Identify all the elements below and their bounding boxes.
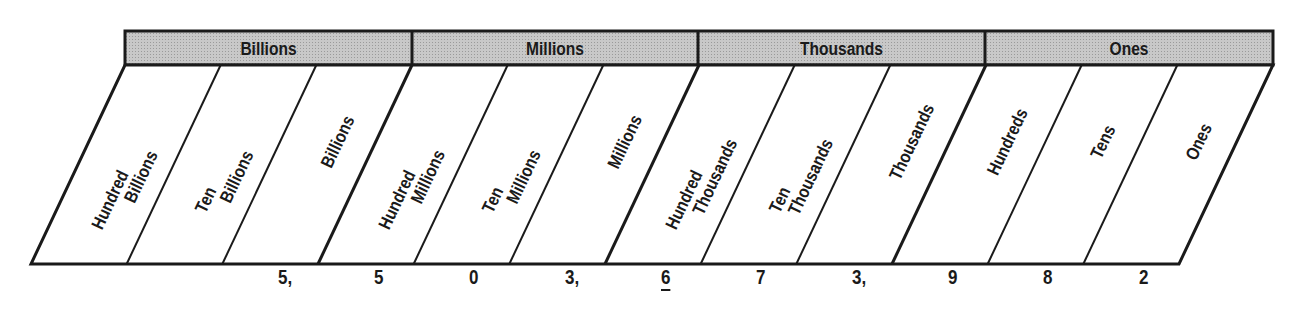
digit-text: 0 — [469, 266, 478, 288]
digit-text: 2 — [1139, 266, 1148, 288]
place-value-chart: BillionsMillionsThousandsOnes HundredBil… — [0, 0, 1302, 316]
digit-text: 5 — [374, 266, 383, 288]
digit-text: 3, — [565, 266, 579, 288]
digit: 0 — [469, 266, 478, 289]
digit: 8 — [1043, 266, 1052, 289]
digit-text: 5, — [278, 266, 292, 288]
digit-text: 9 — [948, 266, 957, 288]
digit-highlighted: 6 — [661, 266, 670, 289]
place-columns-body — [31, 65, 1273, 264]
digit: 2 — [1139, 266, 1148, 289]
digit-text: 6 — [661, 266, 670, 291]
digit: 5 — [374, 266, 383, 289]
digit-text: 3, — [852, 266, 866, 288]
digit: 9 — [948, 266, 957, 289]
digit: 7 — [756, 266, 765, 289]
digit: 3, — [565, 266, 579, 289]
digit-text: 7 — [756, 266, 765, 288]
group-label-thousands: Thousands — [800, 38, 883, 60]
digit: 3, — [852, 266, 866, 289]
group-label-millions: Millions — [526, 38, 584, 60]
group-label-ones: Ones — [1110, 38, 1149, 60]
digit-text: 8 — [1043, 266, 1052, 288]
digit: 5, — [278, 266, 292, 289]
group-label-billions: Billions — [240, 38, 296, 60]
group-header-band — [125, 31, 1273, 65]
